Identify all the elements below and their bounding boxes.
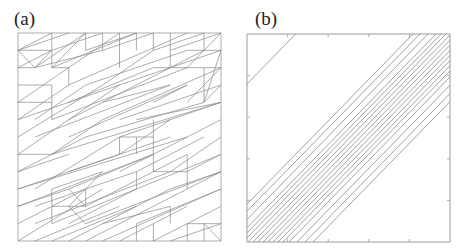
panel-b-label: (b) — [255, 9, 277, 28]
mesh-edge — [69, 33, 187, 85]
mesh-edge — [18, 154, 69, 171]
contour-line — [247, 34, 441, 233]
contour-line — [253, 40, 450, 242]
contour-line — [283, 71, 450, 242]
panel-a-triangular-mesh — [18, 33, 221, 241]
contour-line — [305, 93, 450, 242]
contour-line — [247, 34, 428, 220]
mesh-plot — [18, 33, 221, 241]
mesh-edge — [52, 33, 86, 68]
mesh-edge — [18, 50, 35, 67]
mesh-edge — [170, 137, 221, 172]
mesh-edge — [52, 120, 103, 155]
mesh-edge — [153, 85, 187, 102]
mesh-edge — [35, 137, 120, 189]
contour-line — [247, 34, 296, 84]
mesh-edge — [35, 85, 170, 137]
contour-line — [263, 50, 450, 242]
contour-line — [247, 34, 436, 228]
mesh-edge — [18, 85, 120, 154]
mesh-edge — [136, 189, 221, 224]
mesh-edge — [18, 189, 103, 241]
mesh-edge — [52, 154, 221, 223]
mesh-edge — [170, 224, 221, 241]
panel-a-label: (a) — [14, 9, 35, 28]
contour-plot — [247, 34, 450, 242]
mesh-edge — [52, 206, 137, 241]
mesh-edge — [52, 33, 103, 50]
mesh-edge — [69, 85, 187, 137]
mesh-edge — [35, 50, 52, 67]
contour-line — [273, 61, 450, 242]
mesh-edge — [52, 33, 137, 68]
mesh-edge — [120, 120, 222, 172]
mesh-edge — [170, 50, 204, 67]
mesh-edge — [18, 50, 52, 67]
contour-line — [248, 35, 450, 242]
mesh-edge — [35, 172, 170, 224]
mesh-edge — [103, 189, 221, 241]
mesh-edge — [103, 50, 154, 85]
contour-line — [258, 45, 450, 242]
mesh-edge — [35, 50, 103, 67]
mesh-edge — [187, 172, 221, 189]
contour-line — [268, 55, 450, 242]
mesh-edge — [35, 206, 120, 241]
contour-line — [247, 34, 420, 211]
mesh-edge — [18, 33, 52, 50]
mesh-edge — [18, 33, 69, 50]
panel-b-parallel-lines — [247, 34, 450, 242]
contour-line — [278, 66, 450, 242]
